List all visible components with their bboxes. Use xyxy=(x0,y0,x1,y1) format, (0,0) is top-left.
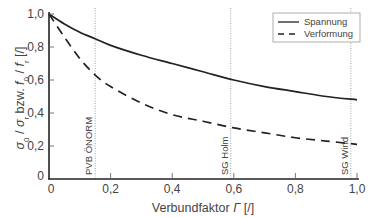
y-axis-title: σ0 / σr bzw. f0 / fr [/] xyxy=(13,46,31,149)
x-tick-label: 0,4 xyxy=(164,182,181,196)
x-tick-label: 0,6 xyxy=(225,182,242,196)
x-axis-title: Verbundfaktor Γ [/] xyxy=(152,201,254,215)
x-tick-label: 1,0 xyxy=(349,182,366,196)
reference-label: PVB ÖNORM xyxy=(83,117,94,175)
y-tick-label: 1,0 xyxy=(27,7,44,21)
x-tick-label: 0,2 xyxy=(102,182,119,196)
legend: Spannung Verformung xyxy=(273,13,360,42)
reference-label: SG Holm xyxy=(219,136,230,175)
legend-label-verformung: Verformung xyxy=(304,28,353,39)
legend-label-spannung: Spannung xyxy=(304,16,347,27)
chart: PVB ÖNORMSG HolmSG Wind 00,20,40,60,81,0… xyxy=(0,0,380,217)
y-tick-label: 0 xyxy=(37,169,44,183)
y-tick-label: 0,8 xyxy=(27,40,44,54)
x-tick-label: 0,8 xyxy=(287,182,304,196)
x-tick-label: 0 xyxy=(48,182,55,196)
